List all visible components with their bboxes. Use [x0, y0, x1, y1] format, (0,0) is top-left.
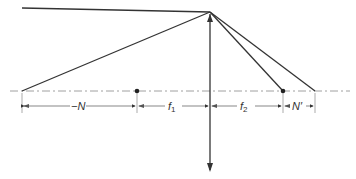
focal-point-1	[135, 89, 140, 94]
lens-bottom-arrow-icon	[207, 163, 213, 172]
focal-point-2	[281, 89, 286, 94]
label-n-prime: N′	[292, 100, 303, 112]
left-inclined-ray	[22, 12, 210, 91]
label-neg-n: −N	[71, 100, 85, 112]
label-f1: f1	[168, 100, 176, 114]
optics-diagram: −N f1 f2 N′	[0, 0, 356, 179]
ray-to-focal-point	[210, 12, 283, 91]
ray-to-n-prime	[210, 12, 315, 91]
label-f2: f2	[240, 100, 248, 114]
incoming-ray	[22, 8, 210, 12]
